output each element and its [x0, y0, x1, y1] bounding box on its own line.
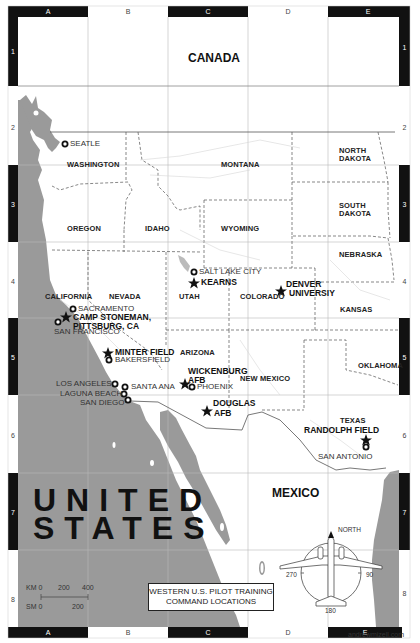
- bakersfield-marker: [106, 357, 111, 362]
- grid-row-8-right: 8: [399, 590, 410, 597]
- state-nevada: NEVADA: [109, 293, 141, 301]
- state-new-mexico: NEW MEXICO: [240, 375, 290, 383]
- state-utah: UTAH: [179, 293, 200, 301]
- city-laguna-beach: LAGUNA BEACH: [60, 390, 122, 398]
- sacramento-marker: [70, 306, 75, 311]
- grid-col-c-top: C: [168, 8, 248, 15]
- compass-south-label: 180: [325, 608, 336, 615]
- phoenix-marker: [189, 384, 194, 389]
- scale-sm-200: 200: [72, 603, 84, 610]
- grid-col-e-top: E: [328, 8, 408, 15]
- base-randolph-field: RANDOLPH FIELD: [304, 426, 379, 435]
- compass-west-label: 270: [286, 572, 297, 579]
- scale-km-label: KM 0: [26, 584, 42, 591]
- label-mexico: MEXICO: [272, 487, 319, 499]
- state-kansas: KANSAS: [340, 306, 372, 314]
- state-montana: MONTANA: [221, 161, 259, 169]
- state-south-dakota-2: DAKOTA: [339, 210, 371, 218]
- city-santa-ana: SANTA ANA: [131, 383, 175, 391]
- label-canada: CANADA: [188, 52, 240, 64]
- state-california: CALIFORNIA: [45, 293, 92, 301]
- city-san-diego: SAN DIEGO: [80, 399, 124, 407]
- scale-sm-label: SM 0: [26, 603, 42, 610]
- san-diego-marker: [125, 397, 130, 402]
- base-kearns: KEARNS: [201, 278, 237, 287]
- label-states: STATES: [33, 511, 214, 545]
- state-arizona: ARIZONA: [180, 349, 215, 357]
- base-denver-2: UNIVERSIY: [289, 289, 335, 298]
- san-antonio-marker: [363, 444, 368, 449]
- base-minter-field: MINTER FIELD: [115, 348, 175, 357]
- state-idaho: IDAHO: [145, 225, 170, 233]
- grid-row-6-left: 6: [8, 432, 18, 439]
- grid-row-2-left: 2: [8, 124, 18, 131]
- grid-row-2-right: 2: [399, 124, 410, 131]
- state-washington: WASHINGTON: [67, 161, 120, 169]
- grid-col-d-top: D: [248, 8, 328, 15]
- credit-link[interactable]: andrewmizell.com: [348, 631, 404, 638]
- map-title-box: WESTERN U.S. PILOT TRAINING COMMAND LOCA…: [148, 583, 274, 611]
- grid-col-c-bottom: C: [168, 629, 248, 636]
- state-oregon: OREGON: [67, 225, 101, 233]
- grid-row-1-right: 1: [399, 44, 410, 51]
- base-wickenburg-2: AFB: [188, 376, 205, 385]
- grid-row-7-left: 7: [8, 509, 18, 516]
- city-san-antonio: SAN ANTONIO: [318, 453, 373, 461]
- state-oklahoma: OKLAHOMA: [358, 362, 403, 370]
- grid-row-6-right: 6: [399, 432, 410, 439]
- city-seattle: SEATLE: [70, 140, 100, 148]
- state-wyoming: WYOMING: [221, 225, 259, 233]
- grid-row-4-right: 4: [399, 278, 410, 285]
- salt-lake-city-marker: [191, 269, 196, 274]
- seattle-marker: [62, 141, 67, 146]
- grid-row-5-left: 5: [8, 354, 18, 361]
- map-title-line-1: WESTERN U.S. PILOT TRAINING: [149, 587, 273, 597]
- scale-km-400: 400: [82, 584, 94, 591]
- grid-row-3-left: 3: [8, 201, 18, 208]
- state-nebraska: NEBRASKA: [339, 251, 382, 259]
- grid-row-3-right: 3: [399, 201, 410, 208]
- map-canvas: [0, 0, 420, 643]
- san-francisco-marker: [55, 319, 60, 324]
- compass-north-label: NORTH: [338, 527, 361, 534]
- grid-row-5-right: 5: [399, 354, 410, 361]
- grid-col-a-bottom: A: [8, 629, 88, 636]
- grid-row-1-left: 1: [8, 48, 18, 55]
- map-title-line-2: COMMAND LOCATIONS: [149, 597, 273, 607]
- base-camp-stoneman-2: PITTSBURG, CA: [73, 322, 139, 331]
- grid-row-8-left: 8: [8, 596, 18, 603]
- base-douglas-1: DOUGLAS: [213, 399, 256, 408]
- grid-col-b-bottom: B: [88, 629, 168, 636]
- grid-row-7-right: 7: [399, 509, 410, 516]
- base-douglas-2: AFB: [214, 409, 231, 418]
- city-bakersfield: BAKERSFIELD: [115, 356, 170, 364]
- grid-col-a-top: A: [8, 8, 88, 15]
- grid-col-b-top: B: [88, 8, 168, 15]
- los-angeles-marker: [112, 381, 117, 386]
- city-los-angeles: LOS ANGELES: [56, 380, 112, 388]
- scale-km-200: 200: [58, 584, 70, 591]
- city-salt-lake-city: SALT LAKE CITY: [199, 268, 261, 276]
- grid-col-d-bottom: D: [248, 629, 328, 636]
- grid-row-4-left: 4: [8, 278, 18, 285]
- state-north-dakota-2: DAKOTA: [339, 155, 371, 163]
- state-texas: TEXAS: [340, 417, 366, 425]
- santa-ana-marker: [122, 384, 127, 389]
- state-colorado: COLORADO: [240, 293, 285, 301]
- compass-east-label: 90: [366, 572, 373, 579]
